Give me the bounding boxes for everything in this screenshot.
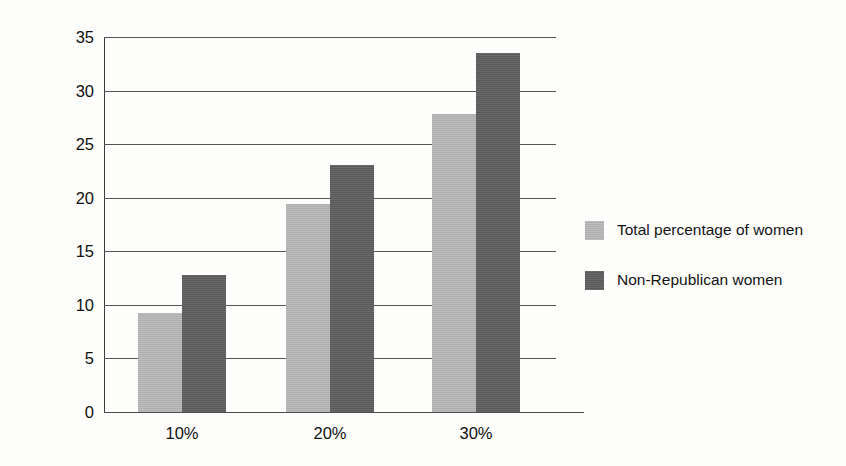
bar (476, 53, 520, 412)
x-axis-line (104, 412, 584, 413)
legend-swatch-icon (585, 271, 604, 290)
y-axis-tick-label: 5 (60, 350, 94, 367)
bar (330, 165, 374, 413)
legend-item: Non-Republican women (585, 255, 835, 305)
legend-swatch-icon (585, 221, 604, 240)
x-axis-tick-label: 20% (285, 424, 375, 443)
y-axis-tick-label: 35 (60, 29, 94, 46)
y-axis-tick-labels: 05101520253035 (58, 0, 94, 375)
y-axis-tick-label: 20 (60, 190, 94, 207)
chart-legend: Total percentage of womenNon-Republican … (585, 205, 835, 305)
x-axis-tick-label: 30% (431, 424, 521, 443)
plot-area (104, 37, 556, 412)
y-axis-tick-label: 10 (60, 297, 94, 314)
legend-item-label: Non-Republican women (617, 271, 782, 289)
y-axis-tick-label: 30 (60, 83, 94, 100)
bar (286, 204, 330, 412)
bar (182, 275, 226, 412)
x-axis-tick-label: 10% (137, 424, 227, 443)
y-axis-tick-label: 15 (60, 243, 94, 260)
legend-item-label: Total percentage of women (617, 221, 803, 239)
legend-item: Total percentage of women (585, 205, 835, 255)
y-axis-line (104, 37, 105, 412)
bar (432, 114, 476, 412)
y-axis-tick-label: 0 (60, 404, 94, 421)
bar-chart: Overall schedule control 05101520253035 … (0, 0, 846, 466)
gridline (104, 37, 556, 38)
bar (138, 313, 182, 412)
y-axis-tick-label: 25 (60, 136, 94, 153)
